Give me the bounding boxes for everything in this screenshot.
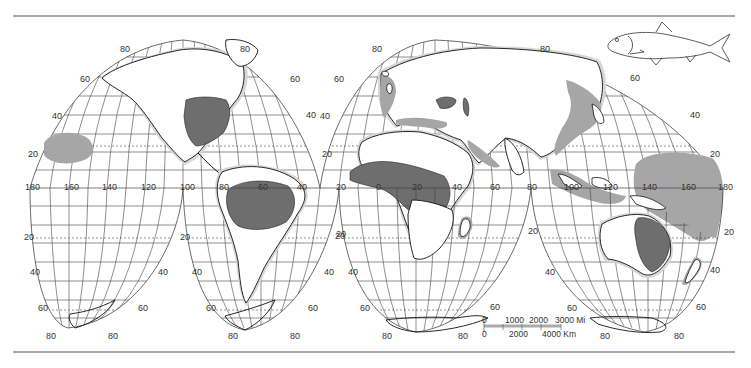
lat-label-40n-w: 40 [52,111,62,121]
lat-label-40n-e1: 40 [320,111,330,121]
lat-label-60s-2r: 60 [308,303,318,313]
lat-label-80n-e1: 80 [372,44,382,54]
lat-label-40s-2r: 40 [324,267,334,277]
lat-label-60s-1: 60 [38,303,48,313]
lat-label-80s-4: 80 [600,331,610,341]
lat-label-80s-4r: 80 [674,331,684,341]
lat-label-60s-3r: 60 [490,302,500,312]
lon-label-80e: 80 [527,182,537,192]
lat-label-80s-1r: 80 [108,331,118,341]
lon-label-100e: 100 [564,182,579,192]
lon-label-20w: 20 [336,182,346,192]
lon-label-180w: 180 [25,182,40,192]
lat-label-20s-1: 20 [24,232,34,242]
lat-label-80n-e2: 80 [540,44,550,54]
lat-label-40s-4r: 40 [710,265,720,275]
lat-label-20s-4: 20 [528,226,538,236]
lon-label-40w: 40 [297,182,307,192]
lat-label-80s-3r: 80 [458,331,468,341]
lon-label-60w: 60 [258,182,268,192]
lat-label-60n-e1: 60 [334,74,344,84]
landmass-antarctica-w [69,300,115,328]
lat-label-80s-3: 80 [382,331,392,341]
lat-label-20s-3: 20 [336,229,346,239]
lat-label-20s-2: 20 [180,232,190,242]
fish-illustration [608,22,730,65]
lat-label-60s-4: 60 [567,303,577,313]
scale-km-0: 0 [482,329,487,339]
lon-label-120w: 120 [141,182,156,192]
lat-label-60n-m: 60 [290,74,300,84]
lat-label-20n-e2: 20 [710,149,720,159]
lat-label-80n-m: 80 [240,44,250,54]
scale-mi-0: 0 [482,315,487,325]
lon-label-60e: 60 [490,182,500,192]
scale-bar: 0 1000 2000 3000 Mi 0 2000 4000 Km [482,315,585,339]
lat-label-80s-1: 80 [46,331,56,341]
lon-label-120e: 120 [603,182,618,192]
lat-label-60s-2: 60 [206,303,216,313]
lat-label-60n-w: 60 [80,74,90,84]
lat-label-40s-3: 40 [348,267,358,277]
lat-label-40n-m: 40 [306,110,316,120]
scale-mi-2000: 2000 [529,315,548,325]
landmass-southern-africa [408,200,453,259]
longitude-labels: 180 160 140 120 100 80 60 40 20 0 20 40 … [25,182,733,192]
lat-label-20s-4r: 20 [724,227,734,237]
lat-label-40s-1: 40 [30,267,40,277]
lon-label-80w: 80 [219,182,229,192]
lon-label-180e: 180 [718,182,733,192]
lon-label-140w: 140 [102,182,117,192]
lat-label-20n-w: 20 [28,149,38,159]
lat-label-80s-2: 80 [228,331,238,341]
distribution-map: 80 60 40 20 80 60 40 20 [0,0,751,368]
scale-mi-3000: 3000 Mi [555,315,585,325]
landmass-iceland [382,71,389,76]
lat-label-60s-3: 60 [360,303,370,313]
lat-label-40s-2: 40 [192,267,202,277]
range-eastern-north-america [184,97,230,146]
scale-mi-1000: 1000 [505,315,524,325]
scale-km-2000: 2000 [509,329,528,339]
range-central-pacific [44,133,93,164]
lat-label-60s-4r: 60 [696,302,706,312]
lobe-south-australia: 20 40 60 80 20 40 60 80 [0,188,751,341]
lon-label-0: 0 [376,182,381,192]
lat-label-40s-4: 40 [545,267,555,277]
lon-label-160w: 160 [64,182,79,192]
lat-label-80n-w: 80 [120,44,130,54]
lon-label-140e: 140 [642,182,657,192]
lat-label-40n-e2: 40 [690,110,700,120]
lat-label-60s-1r: 60 [138,303,148,313]
lat-label-60n-e2: 60 [630,73,640,83]
lon-label-100w: 100 [180,182,195,192]
lon-label-40e: 40 [452,182,462,192]
lon-label-160e: 160 [681,182,696,192]
lat-label-40s-1r: 40 [158,267,168,277]
lat-label-80s-2r: 80 [290,331,300,341]
lon-label-20e: 20 [412,182,422,192]
scale-km-4000: 4000 Km [542,329,576,339]
